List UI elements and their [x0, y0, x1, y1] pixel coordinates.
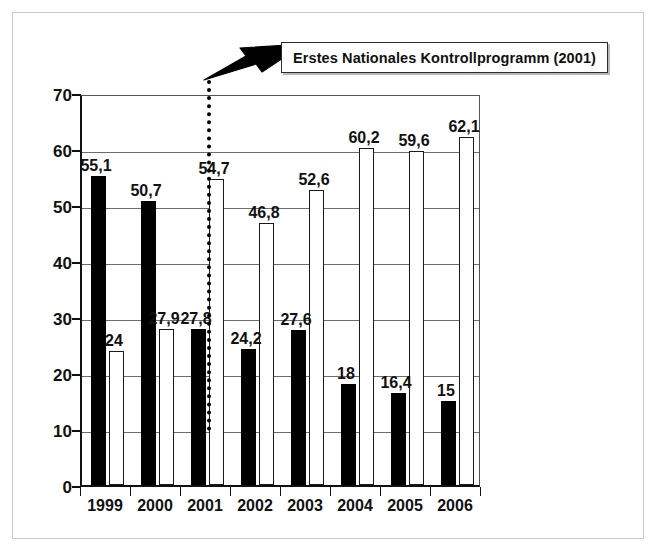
bar-white-bars-2006	[459, 137, 474, 485]
bar-black-bars-2005	[391, 393, 406, 485]
y-axis-tick-label: 20	[26, 367, 72, 384]
bar-black-bars-2002	[241, 349, 256, 485]
x-axis-tick-mark	[180, 487, 181, 496]
plot-area	[80, 95, 480, 487]
x-axis-tick-mark	[380, 487, 381, 496]
event-marker-line	[207, 80, 211, 431]
event-callout-label: Erstes Nationales Kontrollprogramm (2001…	[293, 50, 596, 66]
y-axis-tick-label: 40	[26, 255, 72, 272]
bar-value-label: 27,8	[169, 311, 223, 327]
bar-black-bars-2006	[441, 401, 456, 485]
bar-value-label: 24	[87, 333, 141, 349]
x-axis-tick-mark	[230, 487, 231, 496]
bar-black-bars-1999	[91, 176, 106, 485]
bar-value-label: 55,1	[69, 158, 123, 174]
x-axis-tick-mark	[480, 487, 481, 496]
bar-black-bars-2004	[341, 384, 356, 485]
y-axis-tick-label: 30	[26, 311, 72, 328]
bar-white-bars-2005	[409, 151, 424, 485]
y-axis-tick-label: 0	[26, 479, 72, 496]
bar-white-bars-1999	[109, 351, 124, 485]
bar-black-bars-2000	[141, 201, 156, 485]
bar-black-bars-2003	[291, 330, 306, 485]
bar-value-label: 46,8	[237, 205, 291, 221]
x-axis-tick-mark	[430, 487, 431, 496]
bar-white-bars-2003	[309, 190, 324, 485]
bar-value-label: 24,2	[219, 331, 273, 347]
bar-white-bars-2000	[159, 329, 174, 485]
bar-value-label: 18	[319, 366, 373, 382]
bar-value-label: 15	[419, 383, 473, 399]
bar-value-label: 27,6	[269, 312, 323, 328]
bar-chart: 010203040506070 55,12450,727,927,854,724…	[0, 0, 658, 553]
bar-black-bars-2001	[191, 329, 206, 485]
bar-value-label: 60,2	[337, 130, 391, 146]
bar-value-label: 59,6	[387, 133, 441, 149]
x-axis-tick-mark	[80, 487, 81, 496]
y-axis-tick-label: 60	[26, 143, 72, 160]
x-axis-tick-mark	[130, 487, 131, 496]
bar-value-label: 54,7	[187, 161, 241, 177]
event-callout-box: Erstes Nationales Kontrollprogramm (2001…	[281, 42, 608, 73]
x-axis-tick-mark	[330, 487, 331, 496]
bar-value-label: 16,4	[369, 375, 423, 391]
y-axis-tick-label: 10	[26, 423, 72, 440]
bar-value-label: 50,7	[119, 183, 173, 199]
x-axis-tick-mark	[280, 487, 281, 496]
x-axis-tick-label-2006: 2006	[425, 498, 485, 514]
bar-white-bars-2004	[359, 148, 374, 485]
y-axis-tick-label: 70	[26, 87, 72, 104]
bar-white-bars-2002	[259, 223, 274, 485]
bar-value-label: 62,1	[437, 119, 491, 135]
y-axis-tick-label: 50	[26, 199, 72, 216]
bar-value-label: 52,6	[287, 172, 341, 188]
